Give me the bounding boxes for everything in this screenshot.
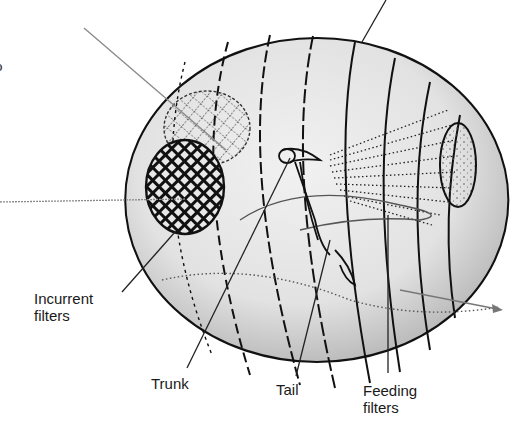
edge-text-fragment: o [0,58,3,75]
label-tail: Tail [276,381,299,398]
label-incurrent-line1: Incurrent [34,290,93,307]
feeding-filter-rim [440,123,476,207]
label-feeding-filters: Feeding filters [363,382,417,416]
label-trunk: Trunk [151,375,189,392]
label-incurrent-line2: filters [34,307,93,324]
label-incurrent-filters: Incurrent filters [34,290,93,324]
label-feeding-line1: Feeding [363,382,417,399]
diagram-canvas [0,0,510,425]
label-feeding-line2: filters [363,399,417,416]
incurrent-filter-front [146,140,224,234]
